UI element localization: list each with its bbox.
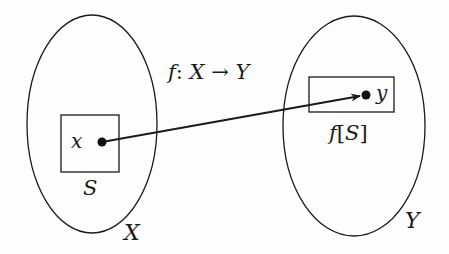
function-title: f: X → Y: [168, 62, 249, 83]
image-close-bracket: ]: [359, 121, 367, 145]
function-mapping-diagram: f: X → Y x S X y f[S] Y: [0, 0, 449, 254]
title-f: f: [168, 60, 176, 84]
title-codomain: Y: [235, 60, 249, 84]
image-s: S: [345, 121, 359, 145]
mapping-arrow: [102, 96, 360, 142]
image-open-bracket: [: [337, 121, 345, 145]
title-colon: :: [176, 60, 183, 84]
subset-s-box: [61, 115, 119, 172]
title-arrow: →: [211, 60, 229, 84]
set-x-label: X: [124, 222, 140, 244]
subset-s-label: S: [83, 178, 97, 199]
set-x-ellipse: [27, 15, 157, 233]
diagram-canvas: [0, 0, 449, 254]
image-f: f: [329, 121, 337, 145]
element-y-label: y: [376, 83, 387, 103]
image-fs-label: f[S]: [329, 123, 368, 144]
point-y-dot: [362, 91, 371, 100]
point-x-dot: [98, 138, 107, 147]
set-y-label: Y: [405, 210, 420, 232]
title-domain: X: [190, 60, 205, 84]
element-x-label: x: [71, 131, 82, 151]
